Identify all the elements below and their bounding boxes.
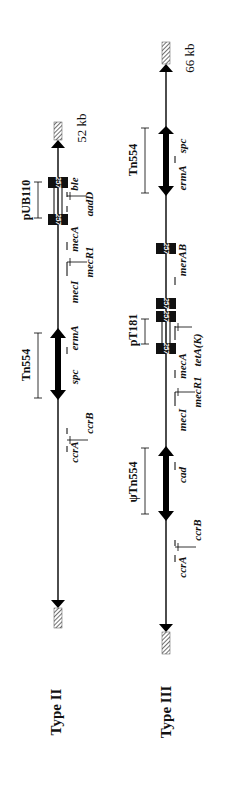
gene-label-mecr1: mecR1 <box>83 246 95 277</box>
plasmid-label-pt181: pT181 <box>126 314 140 347</box>
svg-text:257: 257 <box>163 342 170 356</box>
type-label: Type II <box>48 688 64 735</box>
svg-text:257: 257 <box>55 213 62 227</box>
is257-box: 257 <box>156 297 176 311</box>
chromosome-flank-bottom <box>54 608 62 628</box>
attachment-arrow-icon <box>159 64 173 72</box>
gene-label-meci: mecI <box>68 280 80 303</box>
svg-text:257: 257 <box>163 310 170 324</box>
gene-label-ble: ble <box>68 177 80 191</box>
gene-label-cad: cad <box>176 467 188 483</box>
svg-text:257: 257 <box>163 297 170 311</box>
chromosome-flank-bottom <box>162 632 170 654</box>
gene-label-ccrb: ccrB <box>83 412 95 433</box>
tn554-arrow-icon <box>158 126 174 134</box>
gene-label-ccra: ccrA <box>176 556 188 577</box>
chromosome-flank-top <box>54 122 62 140</box>
sccmec-diagram: 257 257 pUB110 52 kb ble aadD mecA mecR1… <box>0 0 231 794</box>
type-label: Type III <box>158 686 174 739</box>
gene-label-ccrb: ccrB <box>191 519 203 540</box>
type-ii-element: 257 257 pUB110 52 kb ble aadD mecA mecR1… <box>19 113 95 735</box>
psi-tn554-arrow-icon <box>158 446 174 456</box>
transposon-label-psi-tn554: ψTn554 <box>126 462 140 503</box>
gene-label-spc: spc <box>176 139 188 155</box>
gene-label-meca: mecA <box>68 226 80 252</box>
transposon-label-tn554: Tn554 <box>19 349 33 382</box>
gene-label-meca: mecA <box>176 353 188 379</box>
gene-label-mecr1: mecR1 <box>191 376 203 407</box>
attachment-arrow-icon <box>51 600 65 608</box>
size-label: 52 kb <box>74 113 89 142</box>
gene-label-ccra: ccrA <box>68 441 80 462</box>
transposon-label-tn554: Tn554 <box>126 144 140 177</box>
gene-label-tetak: tetA(K) <box>191 334 204 367</box>
gene-label-erma: ermA <box>68 325 80 350</box>
is257-box: 257 <box>48 176 68 190</box>
attachment-arrow-icon <box>51 140 65 148</box>
is257-box: 257 <box>48 213 68 227</box>
chromosome-flank-top <box>162 42 170 64</box>
size-label: 66 kb <box>182 43 197 72</box>
svg-text:257: 257 <box>55 176 62 190</box>
is257-box: 257 <box>156 342 176 356</box>
type-iii-element: 66 kb Tn554 spc ermA 257 merAB 257 257 <box>126 42 204 738</box>
gene-label-merab: merAB <box>176 244 188 276</box>
is257-box: 257 <box>156 310 176 324</box>
tn554-arrow-icon <box>50 328 66 391</box>
gene-label-meci: mecI <box>176 408 188 431</box>
gene-label-erma: ermA <box>176 165 188 190</box>
svg-text:257: 257 <box>163 242 170 256</box>
gene-label-spc: spc <box>68 370 80 386</box>
plasmid-label-pub110: pUB110 <box>19 180 33 221</box>
attachment-arrow-icon <box>159 624 173 632</box>
is257-box: 257 <box>156 242 176 256</box>
gene-label-aadd: aadD <box>83 192 95 217</box>
